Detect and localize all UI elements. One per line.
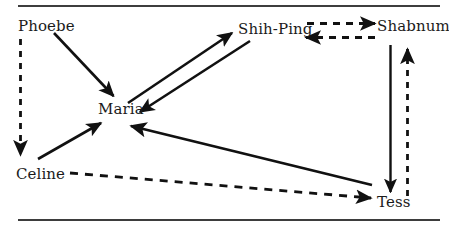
edge-celine-to-maria [38,123,101,159]
edge-maria-to-shih-ping [128,33,232,103]
node-label-phoebe: Phoebe [18,18,75,34]
node-label-tess: Tess [377,194,411,210]
node-label-shih-ping: Shih-Ping [238,21,313,37]
edge-shih-ping-to-maria [140,41,250,112]
node-label-shabnum: Shabnum [377,18,449,34]
edge-phoebe-to-maria [54,33,114,96]
edge-celine-to-tess [70,173,371,198]
diagram-canvas: Phoebe Shih-Ping Shabnum Maria Celine Te… [0,0,449,233]
node-label-celine: Celine [16,166,65,182]
node-label-maria: Maria [98,101,144,117]
edge-tess-to-maria [131,126,372,185]
